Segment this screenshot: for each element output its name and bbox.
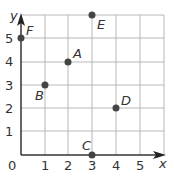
y-axis [17,13,25,155]
y-tick-labels: 1 2 3 4 5 [5,31,13,139]
x-tick: 5 [136,158,144,173]
point-c-label: C [82,138,92,153]
x-tick: 1 [41,158,49,173]
x-tick: 4 [112,158,120,173]
point-e [89,12,96,19]
x-tick-labels: 1 2 3 4 5 [41,158,144,173]
y-tick: 5 [5,31,13,46]
point-d-label: D [121,93,131,108]
origin-label: 0 [8,158,16,173]
point-a [65,59,72,66]
x-axis-label: x [158,156,167,171]
coordinate-plane: x y 0 1 2 3 4 5 1 2 3 4 5 A B C D E F [0,0,174,180]
point-b-label: B [35,88,44,103]
y-tick: 2 [5,101,13,116]
y-tick: 4 [5,54,13,69]
point-a-label: A [72,46,82,61]
point-d [113,105,120,112]
y-axis-label: y [9,8,18,23]
point-e-label: E [97,17,106,32]
point-f [18,35,25,42]
y-tick: 3 [5,78,13,93]
x-tick: 2 [64,158,72,173]
point-f-label: F [26,23,34,38]
x-tick: 3 [88,158,96,173]
y-tick: 1 [5,124,13,139]
